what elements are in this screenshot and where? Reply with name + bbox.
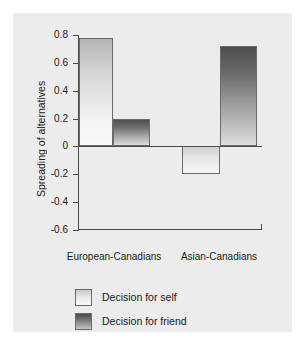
legend-swatch-friend-icon bbox=[75, 313, 92, 330]
y-axis-title: Spreading of alternatives bbox=[34, 49, 48, 229]
y-tick--0.4: -0.4 bbox=[73, 202, 79, 203]
y-tick-0.8: 0.8 bbox=[73, 35, 79, 36]
legend-label-decision-for-friend: Decision for friend bbox=[102, 315, 187, 327]
y-tick--0.6: -0.6 bbox=[73, 230, 79, 231]
y-tick-label-0.6: 0.6 bbox=[54, 58, 68, 68]
bar-european-canadians-friend bbox=[113, 119, 150, 147]
y-tick--0.2: -0.2 bbox=[73, 174, 79, 175]
y-tick-label-0.8: 0.8 bbox=[54, 30, 68, 40]
y-tick-label--0.4: -0.4 bbox=[51, 197, 68, 207]
legend-item-decision-for-self: Decision for self bbox=[75, 285, 187, 309]
y-tick-label-0.4: 0.4 bbox=[54, 86, 68, 96]
x-category-label-asian-canadians: Asian-Canadians bbox=[181, 251, 257, 262]
legend-item-decision-for-friend: Decision for friend bbox=[75, 309, 187, 333]
plot-area: 0.8 0.6 0.4 0.2 0 -0.2 -0.4 -0.6 bbox=[79, 35, 262, 230]
y-tick-label--0.2: -0.2 bbox=[51, 169, 68, 179]
y-tick-label-0.2: 0.2 bbox=[54, 114, 68, 124]
figure-panel: Spreading of alternatives 0.8 0.6 0.4 0.… bbox=[13, 13, 292, 332]
x-axis-right-cap bbox=[261, 224, 262, 230]
legend: Decision for self Decision for friend bbox=[75, 285, 187, 333]
x-category-label-european-canadians: European-Canadians bbox=[67, 251, 162, 262]
y-tick-label--0.6: -0.6 bbox=[51, 225, 68, 235]
zero-line bbox=[78, 146, 262, 147]
bar-asian-canadians-self bbox=[182, 146, 220, 174]
legend-swatch-self-icon bbox=[75, 289, 92, 306]
x-axis-line bbox=[78, 229, 262, 230]
y-tick-label-0: 0 bbox=[62, 141, 68, 151]
bar-european-canadians-self bbox=[79, 38, 113, 147]
bar-asian-canadians-friend bbox=[220, 46, 257, 146]
legend-label-decision-for-self: Decision for self bbox=[102, 291, 177, 303]
